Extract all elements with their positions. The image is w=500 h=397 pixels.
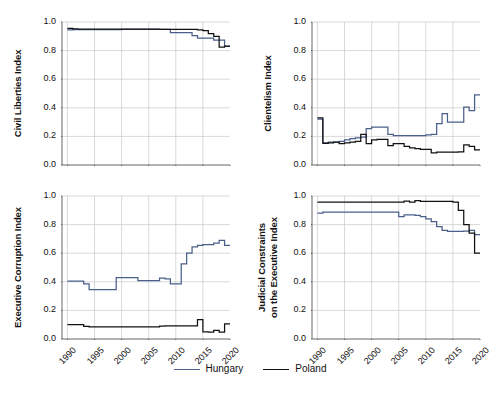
series-line-hungary <box>317 95 480 143</box>
ytick-label: 0.4 <box>18 276 56 286</box>
ytick-label: 0.4 <box>268 276 306 286</box>
ytick-label: 1.0 <box>268 16 306 26</box>
panel-executive-corruption: 0.00.20.40.60.81.01990199520002005201020… <box>0 0 500 397</box>
ytick-label: 0.6 <box>18 247 56 257</box>
ytick-label: 0.4 <box>268 102 306 112</box>
legend-line-swatch-hungary <box>174 369 200 370</box>
ytick-label: 0.2 <box>268 304 306 314</box>
ytick-label: 0.4 <box>18 102 56 112</box>
ytick-label: 0.0 <box>268 159 306 169</box>
ytick-label: 0.8 <box>268 219 306 229</box>
panel-clientelism: 0.00.20.40.60.81.0Clientelism Index <box>0 0 500 397</box>
ytick-label: 1.0 <box>268 190 306 200</box>
series-line-hungary <box>67 240 230 289</box>
ytick-label: 0.0 <box>268 333 306 343</box>
ytick-label: 0.6 <box>18 73 56 83</box>
legend-label-poland: Poland <box>295 364 326 374</box>
ytick-label: 1.0 <box>18 16 56 26</box>
axis-title-judicial-constraints: Judicial Constraintson the Executive Ind… <box>256 196 280 339</box>
axis-title-line-2: on the Executive Index <box>268 196 280 339</box>
ytick-label: 1.0 <box>18 190 56 200</box>
legend-label-hungary: Hungary <box>206 364 244 374</box>
axis-title-line-1: Judicial Constraints <box>256 196 268 339</box>
ytick-label: 0.0 <box>18 159 56 169</box>
panel-judicial-constraints: 0.00.20.40.60.81.01990199520002005201020… <box>0 0 500 397</box>
legend-item-hungary: Hungary <box>174 364 244 374</box>
plot-area-civil-liberties <box>61 21 231 166</box>
ytick-label: 0.8 <box>18 45 56 55</box>
ytick-label: 0.8 <box>268 45 306 55</box>
plot-area-clientelism <box>311 21 481 166</box>
legend-item-poland: Poland <box>263 364 326 374</box>
ytick-label: 0.6 <box>268 73 306 83</box>
figure-multi-panel-line-charts: 0.00.20.40.60.81.0Civil Liberties Index0… <box>0 0 500 397</box>
ytick-label: 0.2 <box>18 130 56 140</box>
plot-area-executive-corruption <box>61 195 231 340</box>
series-line-poland <box>67 28 230 47</box>
series-line-hungary <box>67 29 230 46</box>
panel-civil-liberties: 0.00.20.40.60.81.0Civil Liberties Index <box>0 0 500 397</box>
series-line-poland <box>67 320 230 332</box>
series-line-hungary <box>317 212 480 235</box>
ytick-label: 0.2 <box>268 130 306 140</box>
series-line-poland <box>317 118 480 153</box>
ytick-label: 0.6 <box>268 247 306 257</box>
ytick-label: 0.2 <box>18 304 56 314</box>
plot-area-judicial-constraints <box>311 195 481 340</box>
chart-legend: HungaryPoland <box>0 364 500 374</box>
legend-line-swatch-poland <box>263 369 289 370</box>
axis-title-civil-liberties: Civil Liberties Index <box>12 22 23 165</box>
ytick-label: 0.0 <box>18 333 56 343</box>
axis-title-clientelism: Clientelism Index <box>262 22 273 165</box>
axis-title-executive-corruption: Executive Corruption Index <box>12 196 23 339</box>
ytick-label: 0.8 <box>18 219 56 229</box>
series-line-poland <box>317 201 480 254</box>
